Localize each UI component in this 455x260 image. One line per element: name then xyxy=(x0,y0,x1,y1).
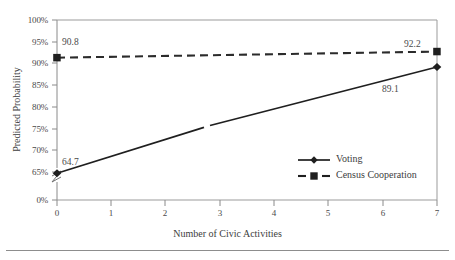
x-tick-label: 3 xyxy=(208,208,232,218)
x-tick-marks xyxy=(57,200,437,206)
series-marker-census-end xyxy=(433,48,441,56)
x-tick-label: 4 xyxy=(262,208,286,218)
page-divider-rule xyxy=(6,250,449,251)
chart-figure: 100% 95% 90% 85% 80% 75% 70% 65% 0% 0 1 … xyxy=(0,0,455,260)
x-tick-label: 6 xyxy=(371,208,395,218)
y-tick-label: 95% xyxy=(0,37,48,47)
data-label-census-end: 92.2 xyxy=(404,39,421,49)
y-tick-label: 65% xyxy=(0,167,48,177)
series-line-voting xyxy=(57,127,204,173)
x-tick-label: 1 xyxy=(99,208,123,218)
series-line-census-cooperation xyxy=(57,52,437,58)
data-label-census-start: 90.8 xyxy=(62,37,79,47)
legend-glyph-census-cooperation xyxy=(298,172,330,179)
series-marker-voting-start xyxy=(53,169,62,177)
series-marker-voting-end xyxy=(433,63,442,71)
y-tick-label: 0% xyxy=(0,195,48,205)
y-tick-label: 90% xyxy=(0,58,48,68)
x-axis-title: Number of Civic Activities xyxy=(0,228,455,239)
series-line-voting-2 xyxy=(210,67,437,126)
y-tick-label: 80% xyxy=(0,102,48,112)
legend-label-census-cooperation: Census Cooperation xyxy=(336,169,417,180)
legend-glyph-voting xyxy=(298,156,330,163)
x-tick-label: 5 xyxy=(316,208,340,218)
x-tick-label: 7 xyxy=(425,208,449,218)
legend-label-voting: Voting xyxy=(336,153,363,164)
y-tick-label: 100% xyxy=(0,15,48,25)
y-tick-label: 85% xyxy=(0,80,48,90)
x-tick-label: 2 xyxy=(153,208,177,218)
data-label-voting-start: 64.7 xyxy=(62,157,79,167)
data-label-voting-end: 89.1 xyxy=(382,84,399,94)
y-tick-label: 70% xyxy=(0,145,48,155)
x-tick-label: 0 xyxy=(45,208,69,218)
y-tick-label: 75% xyxy=(0,124,48,134)
series-marker-census-start xyxy=(53,54,61,62)
y-axis-title: Predicted Probability xyxy=(11,40,22,180)
